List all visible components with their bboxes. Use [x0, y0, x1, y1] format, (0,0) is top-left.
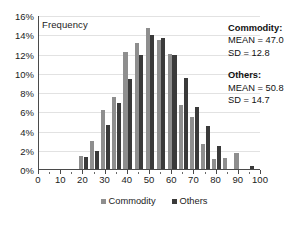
- y-axis-tick-label: 10%: [0, 68, 34, 79]
- bar: [123, 52, 127, 169]
- legend-item[interactable]: Others: [172, 196, 208, 206]
- x-axis-minor-tick-mark: [249, 172, 250, 175]
- bar-group: [145, 15, 155, 169]
- bar: [135, 43, 139, 169]
- x-axis-tick-label: 20: [77, 174, 88, 185]
- bar-group: [167, 15, 177, 169]
- annotation-title: Others:: [228, 69, 308, 81]
- x-axis-minor-tick-mark: [116, 172, 117, 175]
- x-axis-minor-tick-mark: [182, 172, 183, 175]
- bar: [179, 105, 183, 169]
- bar-group: [134, 15, 144, 169]
- y-axis-tick-labels: 16%14%12%10%8%6%4%2%0%: [0, 16, 34, 170]
- y-axis-tick-label: 6%: [0, 107, 34, 118]
- bar-group: [101, 15, 111, 169]
- legend-item[interactable]: Commodity: [101, 196, 156, 206]
- bar: [172, 55, 176, 169]
- x-axis-minor-tick-mark: [227, 172, 228, 175]
- annotation-title: Commodity:: [228, 22, 308, 34]
- chart-legend: CommodityOthers: [0, 196, 308, 206]
- y-axis-tick-label: 8%: [0, 88, 34, 99]
- annotation-block: Others:MEAN = 50.8SD = 14.7: [228, 69, 308, 106]
- bar-group: [189, 15, 199, 169]
- annotation-line: SD = 12.8: [228, 47, 308, 59]
- legend-swatch-icon: [172, 199, 177, 204]
- bar: [201, 144, 205, 169]
- bar-group: [178, 15, 188, 169]
- bar: [157, 40, 161, 169]
- plot-area: [38, 16, 260, 170]
- bar: [128, 79, 132, 169]
- x-axis-tick-label: 90: [233, 174, 244, 185]
- bar: [234, 153, 238, 169]
- x-axis-minor-tick-mark: [71, 172, 72, 175]
- y-axis-tick-label: 4%: [0, 126, 34, 137]
- bar: [90, 141, 94, 169]
- bar: [223, 158, 227, 169]
- bar: [206, 126, 210, 169]
- x-axis-minor-tick-mark: [49, 172, 50, 175]
- bar: [212, 159, 216, 169]
- bar: [95, 151, 99, 169]
- x-axis-tick-label: 0: [35, 174, 40, 185]
- annotation-block: Commodity:MEAN = 47.0SD = 12.8: [228, 22, 308, 59]
- legend-label: Others: [180, 196, 208, 206]
- y-axis-tick-label: 14%: [0, 30, 34, 41]
- bar-group: [78, 15, 88, 169]
- x-axis-minor-tick-mark: [94, 172, 95, 175]
- bar-group: [212, 15, 222, 169]
- x-axis-tick-label: 100: [252, 174, 268, 185]
- legend-label: Commodity: [109, 196, 156, 206]
- bar: [101, 110, 105, 169]
- bar: [139, 55, 143, 169]
- bar: [112, 97, 116, 169]
- y-axis-tick-label: 2%: [0, 145, 34, 156]
- bar: [106, 125, 110, 169]
- x-axis-tick-label: 80: [210, 174, 221, 185]
- x-axis-minor-tick-mark: [205, 172, 206, 175]
- bar: [195, 107, 199, 169]
- bar: [190, 117, 194, 169]
- x-axis-tick-label: 50: [144, 174, 155, 185]
- annotation-line: MEAN = 50.8: [228, 82, 308, 94]
- bar: [150, 35, 154, 169]
- bar: [161, 38, 165, 169]
- statistics-annotations: Commodity:MEAN = 47.0SD = 12.8Others:MEA…: [228, 22, 308, 116]
- bar-group: [112, 15, 122, 169]
- y-axis-tick-label: 0%: [0, 165, 34, 176]
- x-axis-tick-label: 40: [122, 174, 133, 185]
- bar-group: [200, 15, 210, 169]
- x-axis-tick-label: 70: [188, 174, 199, 185]
- bar: [217, 146, 221, 169]
- bar: [84, 157, 88, 169]
- bar: [146, 28, 150, 169]
- y-axis-tick-label: 12%: [0, 49, 34, 60]
- x-axis-tick-label: 60: [166, 174, 177, 185]
- bar: [250, 166, 254, 169]
- bar: [117, 103, 121, 169]
- x-axis-tick-label: 30: [99, 174, 110, 185]
- legend-swatch-icon: [101, 199, 106, 204]
- bar-group: [89, 15, 99, 169]
- x-axis-tick-labels: 0102030405060708090100: [38, 174, 260, 188]
- x-axis-minor-tick-mark: [138, 172, 139, 175]
- bar: [184, 78, 188, 169]
- frequency-histogram-chart: 16%14%12%10%8%6%4%2%0% Frequency 0102030…: [0, 0, 308, 225]
- bar-group: [156, 15, 166, 169]
- x-axis-minor-tick-mark: [160, 172, 161, 175]
- annotation-line: SD = 14.7: [228, 94, 308, 106]
- bar: [79, 156, 83, 169]
- y-axis-title: Frequency: [42, 19, 88, 30]
- y-axis-tick-label: 16%: [0, 11, 34, 22]
- x-axis-tick-label: 10: [55, 174, 66, 185]
- bar-group: [123, 15, 133, 169]
- annotation-line: MEAN = 47.0: [228, 34, 308, 46]
- bar: [168, 54, 172, 170]
- bars-layer: [39, 16, 260, 169]
